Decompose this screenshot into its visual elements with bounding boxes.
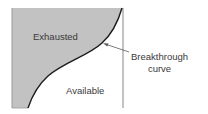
breakthrough-label-line2: curve [131, 63, 188, 75]
arrowhead-icon [103, 43, 109, 46]
exhausted-label: Exhausted [33, 32, 78, 42]
breakthrough-curve-label: Breakthrough curve [131, 51, 188, 75]
leader-line [105, 44, 129, 52]
breakthrough-label-line1: Breakthrough [131, 51, 188, 63]
available-label: Available [66, 86, 104, 96]
breakthrough-diagram: Exhausted Available Breakthrough curve [0, 0, 208, 114]
